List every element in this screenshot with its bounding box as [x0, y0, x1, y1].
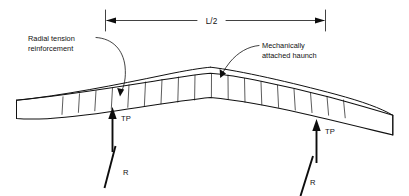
tp-right-arrowhead — [312, 119, 320, 131]
dimension-label: L/2 — [206, 17, 218, 26]
load-tp-right-group: TP — [312, 119, 334, 163]
beam-outline — [17, 73, 393, 135]
annotation-radial-tension-reinforcement: Radial tension reinforcement — [28, 34, 125, 97]
load-r-right-group: R — [301, 156, 317, 196]
r-left-arrow-shaft — [105, 146, 116, 188]
load-r-left-group: R — [105, 146, 130, 188]
beam-haunch-diagram: L/2 — [0, 0, 409, 196]
r-right-arrow-shaft — [301, 156, 314, 196]
haunch-label-line2: attached haunch — [262, 51, 317, 60]
r-right-label: R — [310, 178, 316, 187]
figure-canvas: L/2 — [0, 0, 409, 196]
haunch-leader-line — [223, 46, 259, 74]
annotation-mechanically-attached-haunch: Mechanically attached haunch — [220, 41, 317, 78]
haunch-label-line1: Mechanically — [262, 41, 305, 50]
radial-tension-label-line2: reinforcement — [28, 44, 73, 53]
stirrup-tie — [245, 78, 246, 102]
dimension-left-arrowhead — [106, 18, 116, 24]
load-tp-left-group: TP — [108, 107, 130, 152]
beam-member-group — [17, 73, 393, 135]
radial-tension-label-line1: Radial tension — [28, 34, 75, 43]
dimension-line-group: L/2 — [106, 10, 326, 31]
dimension-right-arrowhead — [315, 18, 325, 24]
tp-left-label: TP — [121, 114, 131, 123]
r-left-label: R — [123, 168, 129, 177]
tp-right-label: TP — [325, 127, 335, 136]
